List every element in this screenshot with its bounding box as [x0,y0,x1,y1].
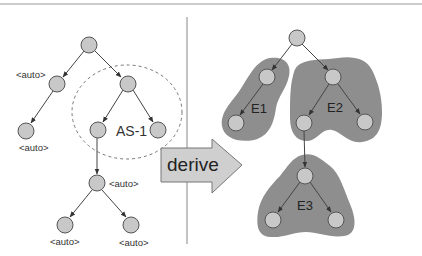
tree-node [297,168,313,184]
derive-label: derive [167,154,219,175]
right-tree: E1 E2 E3 [222,30,382,237]
edge [70,190,92,217]
tree-node [325,69,341,85]
tree-node [259,69,275,85]
auto-label: <auto> [16,69,46,80]
edge [31,91,53,123]
edge [103,90,123,122]
as-1-label: AS-1 [116,123,147,139]
region-label-e1: E1 [251,101,267,116]
tree-node [296,115,312,131]
tree-node [120,76,136,92]
auto-label: <auto> [50,236,80,247]
edge [102,190,126,217]
tree-node [90,122,106,138]
tree-node [89,175,105,191]
tree-node-root [81,37,97,53]
tree-node [228,115,244,131]
region-label-e2: E2 [327,100,343,115]
auto-label: <auto> [109,178,139,189]
tree-node [150,122,166,138]
region-label-e3: E3 [297,198,313,213]
derive-arrow: derive [161,139,242,193]
derive-diagram: <auto> <auto> <auto> <auto> <auto> AS-1 … [0,0,422,256]
tree-node [123,217,139,233]
tree-node [57,217,73,233]
tree-node-root [289,30,305,46]
left-tree: <auto> <auto> <auto> <auto> <auto> AS-1 [16,37,182,248]
auto-label: <auto> [19,142,49,153]
edge [133,90,153,122]
edge [63,51,84,77]
tree-node [357,114,373,130]
tree-node [49,76,65,92]
tree-node [18,123,34,139]
auto-label: <auto> [119,237,149,248]
edge [95,51,121,77]
tree-node [328,212,344,228]
tree-node [265,212,281,228]
